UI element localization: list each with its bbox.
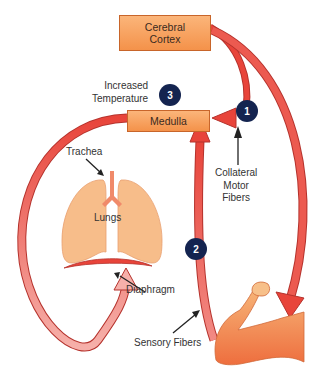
medulla-box: Medulla [127,110,210,132]
collateral-motor-fibers-label: Collateral Motor Fibers [215,167,257,205]
badge-1: 1 [236,100,258,122]
badge-3: 3 [159,84,181,106]
badge-2: 2 [185,238,207,260]
increased-temperature-label: Increased Temperature [92,80,148,105]
sensory-fibers-arrow [190,118,214,340]
diagram-artwork [0,0,327,378]
sensory-fibers-label: Sensory Fibers [134,337,201,350]
cerebral-cortex-line1: Cerebral [145,21,185,34]
diaphragm-label: Diaphragm [126,284,175,297]
cerebral-cortex-box: Cerebral Cortex [119,15,211,51]
medulla-label: Medulla [150,115,187,128]
lungs-label: Lungs [94,212,121,225]
cerebral-cortex-line2: Cortex [145,33,185,46]
respiratory-control-diagram: Cerebral Cortex Medulla Increased Temper… [0,0,327,378]
trachea-label: Trachea [66,146,102,159]
